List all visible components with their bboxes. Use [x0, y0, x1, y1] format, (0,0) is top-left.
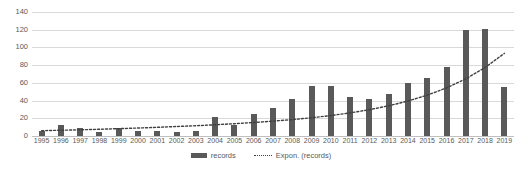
y-tick-label-120: 120	[0, 26, 28, 34]
bar-swatch-icon	[191, 153, 207, 158]
y-tick-label-20: 20	[0, 115, 28, 123]
x-axis-labels: 1995199619971998199920002001200220032004…	[32, 137, 514, 149]
x-tick-label-2012: 2012	[362, 137, 378, 144]
x-tick-label-2011: 2011	[343, 137, 358, 144]
y-axis-labels: 020406080100120140	[0, 12, 30, 136]
chart-container: 020406080100120140 199519961997199819992…	[0, 0, 522, 172]
x-tick-label-1997: 1997	[72, 137, 88, 144]
x-tick-label-2019: 2019	[497, 137, 513, 144]
x-tick-label-2007: 2007	[265, 137, 281, 144]
y-tick-label-0: 0	[0, 132, 28, 140]
y-tick-label-100: 100	[0, 44, 28, 52]
legend-item-expon-records[interactable]: Expon. (records)	[254, 152, 331, 160]
x-tick-label-2000: 2000	[130, 137, 146, 144]
y-tick-label-60: 60	[0, 79, 28, 87]
y-tick-label-40: 40	[0, 97, 28, 105]
x-tick-label-2015: 2015	[419, 137, 435, 144]
x-tick-label-2009: 2009	[304, 137, 320, 144]
x-tick-label-2008: 2008	[284, 137, 300, 144]
x-tick-label-1996: 1996	[53, 137, 69, 144]
y-tick-label-80: 80	[0, 61, 28, 69]
chart-legend: records Expon. (records)	[0, 152, 522, 160]
plot-area	[32, 12, 514, 136]
x-tick-label-2016: 2016	[439, 137, 455, 144]
x-tick-label-2002: 2002	[169, 137, 185, 144]
x-tick-label-2013: 2013	[381, 137, 397, 144]
x-tick-label-2014: 2014	[400, 137, 416, 144]
x-tick-label-2001: 2001	[150, 137, 166, 144]
legend-item-records[interactable]: records	[191, 152, 236, 160]
x-tick-label-2006: 2006	[246, 137, 262, 144]
x-tick-label-2010: 2010	[323, 137, 339, 144]
x-tick-label-2003: 2003	[188, 137, 204, 144]
x-tick-label-1999: 1999	[111, 137, 127, 144]
legend-label-records: records	[211, 152, 236, 160]
x-tick-label-2017: 2017	[458, 137, 474, 144]
x-tick-label-2018: 2018	[477, 137, 493, 144]
x-tick-label-2005: 2005	[227, 137, 243, 144]
dotted-line-swatch-icon	[254, 155, 272, 156]
legend-label-expon-records: Expon. (records)	[276, 152, 331, 160]
trendline-exponential-records	[32, 12, 514, 136]
y-tick-label-140: 140	[0, 8, 28, 16]
x-tick-label-2004: 2004	[207, 137, 223, 144]
x-tick-label-1995: 1995	[34, 137, 50, 144]
x-tick-label-1998: 1998	[92, 137, 108, 144]
